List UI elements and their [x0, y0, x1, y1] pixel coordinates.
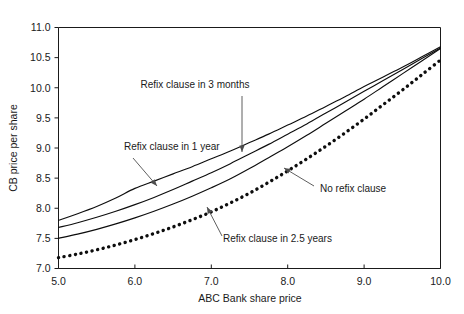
chart-container: 7.07.58.08.59.09.510.010.511.0 5.06.07.0…	[0, 0, 464, 314]
x-axis-tick-labels: 5.06.07.08.09.010.0	[51, 275, 451, 287]
annotation-label-refix-clause-in-1-year: Refix clause in 1 year	[124, 141, 220, 152]
annotation-arrowhead-0	[239, 146, 244, 153]
series-line-no-refix-clause	[59, 60, 441, 258]
y-axis-title: CB price per share	[7, 104, 19, 192]
x-tick-label-8.0: 8.0	[280, 275, 295, 287]
annotation-label-refix-clause-in-2-5-years: Refix clause in 2.5 years	[223, 233, 332, 244]
x-tick-label-5.0: 5.0	[51, 275, 66, 287]
y-tick-label-10.0: 10.0	[30, 82, 51, 94]
x-tick-label-10.0: 10.0	[430, 275, 451, 287]
x-tick-label-9.0: 9.0	[357, 275, 372, 287]
x-tick-label-6.0: 6.0	[128, 275, 143, 287]
y-tick-label-10.5: 10.5	[30, 51, 51, 63]
annotations-group: Refix clause in 3 monthsRefix clause in …	[124, 79, 387, 244]
y-axis-ticks	[55, 28, 59, 269]
y-tick-label-8.0: 8.0	[36, 202, 51, 214]
x-tick-label-7.0: 7.0	[204, 275, 219, 287]
y-tick-label-7.0: 7.0	[36, 262, 51, 274]
chart-canvas: 7.07.58.08.59.09.510.010.511.0 5.06.07.0…	[0, 0, 464, 314]
data-series-group	[59, 47, 441, 258]
series-line-refix-clause-in-1-year	[59, 48, 441, 228]
annotation-label-refix-clause-in-3-months: Refix clause in 3 months	[141, 79, 250, 90]
y-tick-label-7.5: 7.5	[36, 232, 51, 244]
x-axis-ticks	[59, 265, 441, 269]
annotation-label-no-refix-clause: No refix clause	[320, 183, 387, 194]
series-line-refix-clause-in-3-months	[59, 47, 441, 221]
y-tick-label-11.0: 11.0	[31, 21, 51, 33]
x-axis-title: ABC Bank share price	[198, 292, 301, 304]
y-tick-label-9.5: 9.5	[36, 112, 51, 124]
y-axis-tick-labels: 7.07.58.08.59.09.510.010.511.0	[30, 21, 51, 274]
y-tick-label-8.5: 8.5	[36, 172, 51, 184]
y-tick-label-9.0: 9.0	[36, 142, 51, 154]
